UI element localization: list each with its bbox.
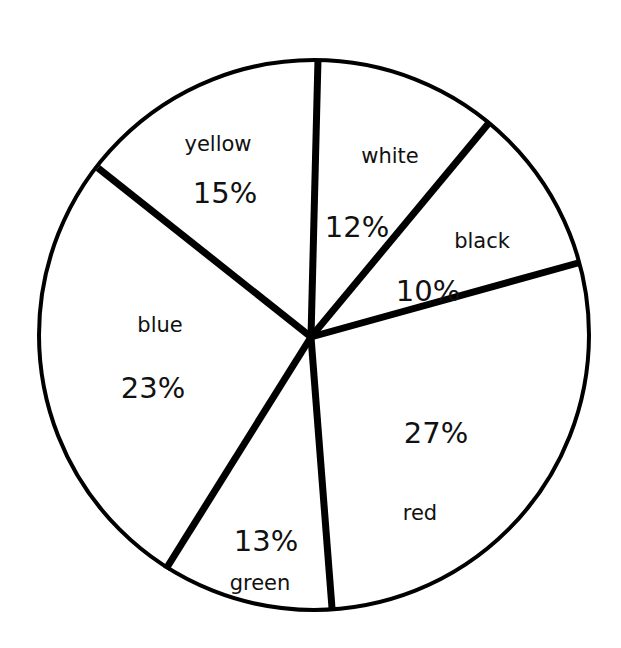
- pie-chart: yellow 15% white 12% black 10% blue 23% …: [0, 0, 621, 648]
- slice-label-black: black: [454, 229, 511, 253]
- slice-pct-yellow: 15%: [193, 176, 257, 210]
- slice-label-green: green: [230, 571, 291, 595]
- slice-label-red: red: [403, 501, 437, 525]
- slice-label-blue: blue: [137, 313, 182, 337]
- slice-label-yellow: yellow: [184, 132, 251, 156]
- slice-pct-red: 27%: [404, 416, 468, 450]
- slice-pct-green: 13%: [234, 524, 298, 558]
- slice-pct-black: 10%: [396, 274, 460, 308]
- slice-pct-white: 12%: [325, 210, 389, 244]
- slice-pct-blue: 23%: [121, 371, 185, 405]
- slice-label-white: white: [361, 144, 418, 168]
